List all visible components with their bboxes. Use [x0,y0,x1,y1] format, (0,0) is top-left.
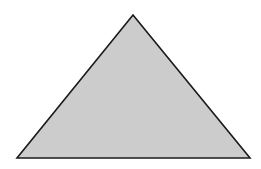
triangle-shape [17,15,250,158]
diagram-canvas [0,0,261,169]
triangle-figure [0,0,261,169]
